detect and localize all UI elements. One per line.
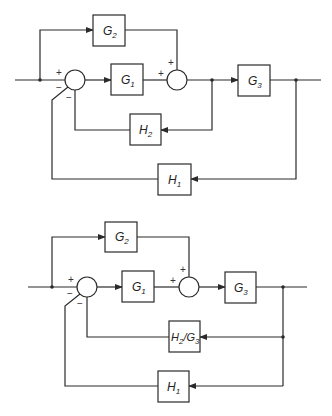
h2-feedback-out-line: [75, 90, 130, 130]
h2g3-feedback-out-line: [87, 297, 169, 337]
sum1-minus-sign-outer: −: [67, 288, 73, 299]
sum2-plus-sign-left: +: [170, 275, 176, 286]
diagram-original: G2 + − − G1 + + G3 H2 H1: [15, 15, 321, 195]
sum2-plus-sign-top: +: [180, 264, 186, 275]
h2-feedback-in-line: [161, 80, 212, 130]
block-diagrams: G2 + − − G1 + + G3 H2 H1: [0, 0, 332, 416]
g2-feedforward-line: [52, 237, 105, 287]
sum2-plus-sign-left: +: [158, 68, 164, 79]
sum1-minus-sign-outer: −: [56, 82, 62, 93]
sum1-minus-sign-inner: −: [77, 298, 83, 309]
sum2-plus-sign-top: +: [168, 57, 174, 68]
g2-feedforward-line: [40, 30, 93, 80]
sum1-minus-sign-inner: −: [66, 92, 72, 103]
sum1-plus-sign: +: [68, 274, 74, 285]
diagram-rearranged: G2 + − − G1 + + G3 H2/G3 H1: [28, 222, 307, 402]
sum1-plus-sign: +: [56, 67, 62, 78]
summing-junction-2: [167, 70, 187, 90]
summing-junction-2: [179, 277, 199, 297]
